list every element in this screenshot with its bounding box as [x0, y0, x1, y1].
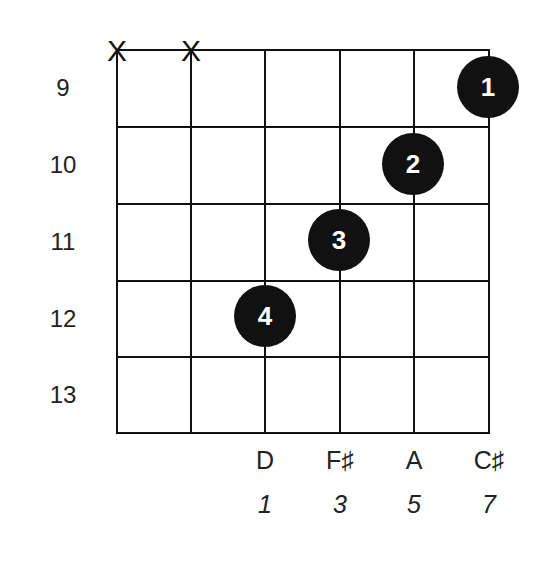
string-line	[264, 49, 266, 434]
finger-dot: 3	[308, 209, 370, 271]
string-line	[116, 49, 118, 434]
string-line	[190, 49, 192, 434]
nut-line	[116, 49, 490, 51]
muted-string-marker: X	[102, 34, 132, 68]
note-label: A	[389, 446, 439, 475]
muted-string-marker: X	[176, 34, 206, 68]
fret-number: 12	[38, 305, 88, 333]
degree-label: 3	[315, 490, 365, 519]
finger-dot: 1	[457, 56, 519, 118]
degree-label: 7	[464, 490, 514, 519]
fret-number: 10	[38, 151, 88, 179]
string-line	[413, 49, 415, 434]
fret-line	[116, 203, 490, 205]
fret-number: 13	[38, 381, 88, 409]
note-label: D	[240, 446, 290, 475]
fret-line	[116, 280, 490, 282]
degree-label: 5	[389, 490, 439, 519]
note-label: C♯	[464, 446, 514, 475]
degree-label: 1	[240, 490, 290, 519]
fret-line	[116, 356, 490, 358]
fret-number: 11	[38, 228, 88, 256]
note-label: F♯	[315, 446, 365, 475]
finger-dot: 4	[234, 285, 296, 347]
finger-dot: 2	[382, 133, 444, 195]
fret-line	[116, 126, 490, 128]
fret-line	[116, 432, 490, 434]
fret-number: 9	[38, 74, 88, 102]
